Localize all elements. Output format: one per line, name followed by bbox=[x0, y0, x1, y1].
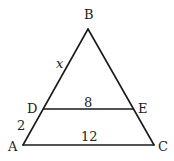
vertex-label-e: E bbox=[138, 102, 148, 115]
vertex-label-d: D bbox=[27, 102, 37, 115]
segment-ab bbox=[23, 29, 88, 145]
measure-label-da: 2 bbox=[17, 119, 25, 132]
vertex-label-a: A bbox=[8, 140, 17, 153]
segment-bc bbox=[88, 29, 154, 145]
vertex-label-b: B bbox=[84, 8, 94, 21]
measure-label-ac: 12 bbox=[81, 130, 98, 143]
measure-label-bd: x bbox=[56, 57, 63, 70]
diagram-canvas: B D E A C x 2 8 12 bbox=[0, 0, 174, 161]
vertex-label-c: C bbox=[158, 140, 168, 153]
measure-label-de: 8 bbox=[84, 96, 92, 109]
